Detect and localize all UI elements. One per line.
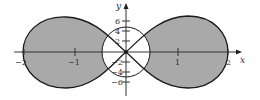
x-tick-label: −2 <box>15 58 27 67</box>
y-axis-arrow-icon <box>124 3 129 9</box>
x-tick-label: 1 <box>175 58 180 67</box>
polar-plot: −2 −1 1 2 6 4 2 −2 −4 −6 x y <box>0 0 260 100</box>
x-tick-label: −1 <box>68 58 80 67</box>
y-tick-label: −4 <box>111 68 123 77</box>
y-axis-label: y <box>115 1 122 11</box>
y-tick-label: 2 <box>115 37 120 46</box>
y-tick-label: 6 <box>115 17 120 26</box>
x-axis-arrow-icon <box>236 50 242 55</box>
y-tick-label: −2 <box>111 58 123 67</box>
origin-point <box>124 50 128 54</box>
y-tick-label: −6 <box>111 78 123 87</box>
x-tick-label: 2 <box>226 58 231 67</box>
y-tick-label: 4 <box>115 27 120 36</box>
x-axis-label: x <box>240 55 245 65</box>
